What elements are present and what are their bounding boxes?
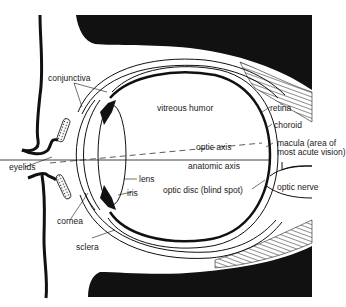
label-sclera: sclera xyxy=(76,242,99,252)
label-macula-line2: most acute vision) xyxy=(277,147,346,157)
upper-tarsal-gland xyxy=(56,118,71,143)
globe-choroid xyxy=(108,67,278,248)
eye-diagram: conjunctiva vitreous humor retina choroi… xyxy=(0,0,346,307)
face-outline xyxy=(22,15,42,151)
upper-eyelid xyxy=(22,140,58,154)
label-optic-nerve: optic nerve xyxy=(277,182,319,192)
label-optic-axis: optic axis xyxy=(196,142,231,152)
lower-tarsal-gland xyxy=(55,174,72,201)
lens xyxy=(98,105,126,205)
face-outline-lower xyxy=(42,175,47,298)
label-lens: lens xyxy=(139,174,155,184)
label-optic-disc: optic disc (blind spot) xyxy=(163,185,243,195)
label-choroid: choroid xyxy=(274,120,302,130)
label-iris: iris xyxy=(127,188,138,198)
globe-retina xyxy=(110,72,270,241)
iris-upper xyxy=(100,100,116,125)
label-anatomic-axis: anatomic axis xyxy=(188,161,240,171)
sclera-lower-outer-2 xyxy=(85,193,276,252)
label-vitreous-humor: vitreous humor xyxy=(157,103,213,113)
label-cornea: cornea xyxy=(57,216,83,226)
label-conjunctiva: conjunctiva xyxy=(48,73,91,83)
iris-lower xyxy=(100,185,116,210)
label-retina: retina xyxy=(270,103,291,113)
label-eyelids: eyelids xyxy=(9,162,35,172)
